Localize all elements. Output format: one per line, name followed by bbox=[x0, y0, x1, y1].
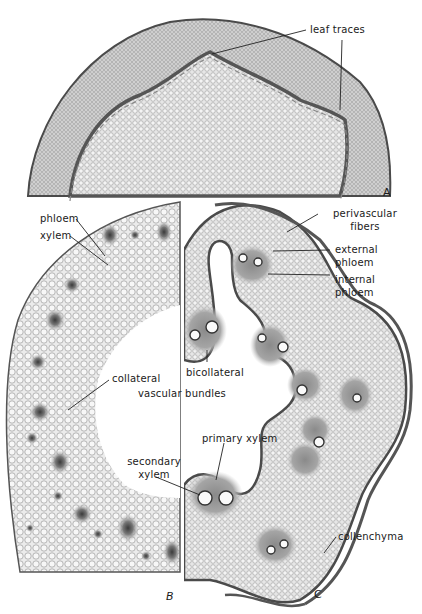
panel-letter-b: B bbox=[166, 590, 174, 603]
label-vascular-bundles: vascular bundles bbox=[138, 388, 226, 400]
figure-canvas bbox=[0, 0, 422, 614]
panel-c-micrograph bbox=[183, 203, 411, 605]
panel-letter-c: C bbox=[314, 588, 322, 601]
label-phloem: phloem bbox=[40, 213, 79, 225]
panel-b-micrograph bbox=[6, 202, 181, 572]
label-bicollateral: bicollateral bbox=[186, 367, 244, 379]
label-collateral: collateral bbox=[112, 373, 160, 385]
label-internal: internal bbox=[335, 274, 375, 286]
label-secondary: secondary bbox=[124, 456, 184, 468]
panel-letter-a: A bbox=[383, 186, 391, 199]
label-secondary-xylem: xylem bbox=[124, 469, 184, 481]
label-fibers: fibers bbox=[322, 221, 408, 233]
label-xylem: xylem bbox=[40, 230, 72, 242]
label-collenchyma: collenchyma bbox=[338, 531, 404, 543]
panel-a-micrograph bbox=[28, 19, 390, 201]
label-external-phloem: phloem bbox=[335, 257, 374, 269]
label-perivascular: perivascular bbox=[322, 208, 408, 220]
label-internal-phloem: phloem bbox=[335, 287, 374, 299]
label-external: external bbox=[335, 244, 378, 256]
label-leaf-traces: leaf traces bbox=[310, 24, 365, 36]
label-primary-xylem: primary xylem bbox=[202, 433, 277, 445]
